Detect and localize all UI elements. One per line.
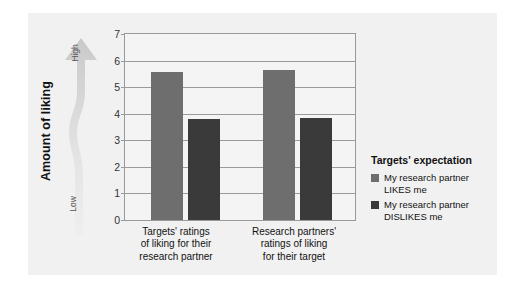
gridline [125,61,355,62]
y-axis-tick-label: 7 [114,28,120,40]
y-axis-title: Amount of liking [34,26,58,236]
y-axis-tick-label: 4 [114,108,120,120]
y-axis-tick-mark [121,220,125,221]
x-axis-label-line: Targets' ratings [128,226,224,238]
x-axis-label-line: Research partners' [242,226,346,238]
plot-area: 01234567 [124,33,356,221]
y-axis-tick-mark [121,114,125,115]
x-axis-label-line: ratings of liking [242,238,346,250]
y-axis-tick-label: 1 [114,187,120,199]
legend-swatch-likes [371,174,379,182]
legend-item-likes: My research partner LIKES me [371,172,495,195]
legend-item-dislikes: My research partner DISLIKES me [371,199,495,222]
arrow-label-high: High [70,38,80,68]
y-axis-tick-mark [121,34,125,35]
y-axis-tick-label: 3 [114,134,120,146]
bar [151,72,183,220]
x-axis-label-line: for their target [242,251,346,263]
y-axis-tick-label: 0 [114,214,120,226]
y-axis-tick-label: 6 [114,55,120,67]
x-axis-label-group-2: Research partners' ratings of liking for… [242,226,346,263]
liking-direction-arrow [58,24,104,236]
legend-swatch-dislikes [371,201,379,209]
y-axis-tick-label: 5 [114,81,120,93]
y-axis-tick-mark [121,167,125,168]
legend-label-likes: My research partner LIKES me [384,172,469,195]
bar [263,70,295,220]
bar [300,118,332,220]
legend-title: Targets' expectation [371,154,495,166]
y-axis-tick-label: 2 [114,161,120,173]
legend-label-line: DISLIKES me [384,211,469,223]
legend-label-line: My research partner [384,199,469,211]
x-axis-label-line: research partner [128,251,224,263]
y-axis-tick-mark [121,87,125,88]
legend-label-line: My research partner [384,172,469,184]
chart-figure: Amount of liking High Low 01234567 Targe… [0,0,511,289]
y-axis-tick-mark [121,61,125,62]
arrow-label-low: Low [68,189,78,219]
x-axis-label-group-1: Targets' ratings of liking for their res… [128,226,224,263]
legend: Targets' expectation My research partner… [371,154,495,226]
y-axis-tick-mark [121,140,125,141]
x-axis-label-line: of liking for their [128,238,224,250]
bar [188,119,220,220]
y-axis-tick-mark [121,193,125,194]
y-axis-title-text: Amount of liking [39,81,53,181]
legend-label-dislikes: My research partner DISLIKES me [384,199,469,222]
legend-label-line: LIKES me [384,184,469,196]
